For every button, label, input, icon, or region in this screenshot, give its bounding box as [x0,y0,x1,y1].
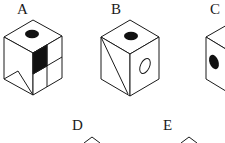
cube-d [84,137,100,143]
cubes-drawing [0,0,225,143]
black-circle-icon [25,30,39,38]
cube-a [4,20,62,95]
cube-puzzle-figure: A B C D E [0,0,225,143]
black-circle-icon [124,32,138,40]
cube-e [181,137,197,143]
cube-b [101,20,159,96]
cube-c [206,21,225,96]
